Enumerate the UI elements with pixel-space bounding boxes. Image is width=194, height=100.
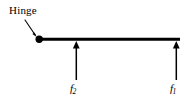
force-arrow-f2 (73, 41, 80, 80)
hinge-pivot-dot (36, 36, 43, 43)
force-arrowhead-f2 (73, 41, 80, 49)
hinge-leader-line (25, 20, 37, 37)
hinge-label: Hinge (9, 5, 37, 16)
hinge-leader-arrowhead (32, 33, 36, 38)
hinged-bar-diagram: Hinge f2 f1 (0, 0, 194, 100)
force-label-f2-subscript: 2 (73, 87, 77, 96)
force-label-f1: f1 (170, 83, 177, 94)
force-label-f2: f2 (70, 83, 77, 94)
force-label-f1-subscript: 1 (173, 87, 177, 96)
force-arrow-f1 (173, 41, 180, 80)
force-arrowhead-f1 (173, 41, 180, 49)
